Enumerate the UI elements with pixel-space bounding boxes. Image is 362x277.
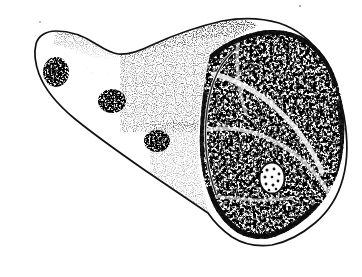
smudge-left-tip bbox=[43, 57, 69, 87]
smudge-mid-upper bbox=[98, 89, 126, 113]
illustration-canvas bbox=[0, 0, 362, 277]
bone-fragment-illustration bbox=[0, 0, 362, 277]
nutrient-foramen bbox=[260, 163, 285, 194]
smudge-mid-lower bbox=[144, 130, 170, 152]
